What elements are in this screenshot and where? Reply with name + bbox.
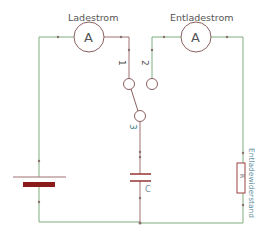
capacitor bbox=[130, 174, 151, 181]
ammeter-discharge-symbol: A bbox=[191, 30, 200, 45]
discharge-wire bbox=[140, 37, 243, 223]
ammeter-discharge-label: Entladestrom bbox=[170, 12, 234, 23]
switch bbox=[124, 79, 158, 122]
circuit-diagram: Ladestrom Entladestrom A A 1 2 3 C Entla… bbox=[0, 0, 267, 238]
contact-1-label: 1 bbox=[117, 60, 127, 66]
capacitor-label: C bbox=[145, 185, 151, 194]
circuit-svg bbox=[0, 0, 267, 238]
ammeter-charge-symbol: A bbox=[84, 30, 93, 45]
ammeter-charge-label: Ladestrom bbox=[68, 12, 118, 23]
resistor-label: Entladewiderstand bbox=[247, 148, 256, 218]
resistor-symbol: R bbox=[239, 174, 246, 178]
contact-2-label: 2 bbox=[140, 60, 150, 66]
battery bbox=[13, 177, 66, 187]
charge-wire bbox=[104, 37, 129, 79]
contact-3-label: 3 bbox=[128, 124, 138, 130]
